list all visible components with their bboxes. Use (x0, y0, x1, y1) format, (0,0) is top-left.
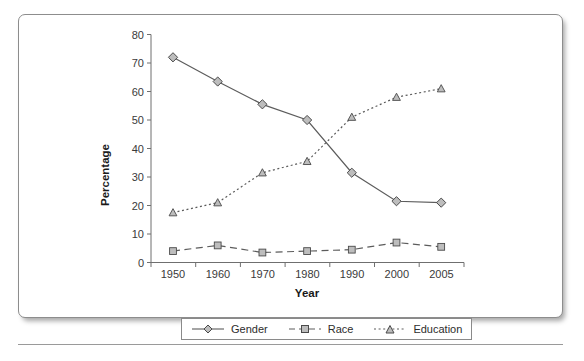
chart-legend: Gender Race Education (181, 318, 472, 340)
y-axis-title: Percentage (99, 144, 111, 206)
legend-label-education: Education (413, 323, 462, 335)
x-tick-label: 2005 (429, 268, 453, 280)
data-point-education-1950 (169, 209, 177, 216)
legend-label-race: Race (328, 323, 354, 335)
data-point-education-1960 (214, 199, 222, 206)
series-line-gender (173, 57, 441, 202)
data-point-gender-1950 (168, 53, 177, 62)
series-education (169, 85, 445, 216)
chart-canvas: Percentage 80 70 60 50 40 30 20 10 0 (19, 15, 564, 317)
series-layer (168, 53, 445, 256)
diamond-marker-solid-line-icon (191, 323, 225, 335)
data-point-education-2005 (437, 85, 445, 92)
series-race (170, 239, 445, 256)
y-tick-label: 50 (132, 114, 144, 126)
legend-entry-gender: Gender (191, 323, 268, 335)
x-tick-label: 1980 (295, 268, 319, 280)
series-gender (168, 53, 445, 208)
y-tick-label: 40 (132, 143, 144, 155)
y-tick-label: 70 (132, 57, 144, 69)
data-point-race-1990 (348, 246, 355, 253)
legend-label-gender: Gender (231, 323, 268, 335)
y-axis-ticks: 80 70 60 50 40 30 20 10 0 (132, 29, 144, 269)
data-point-education-2000 (393, 93, 401, 100)
y-tick-label: 10 (132, 228, 144, 240)
x-axis-ticks: 1950 1960 1970 1980 1990 2000 2005 (161, 268, 454, 280)
data-point-gender-2000 (392, 197, 401, 206)
data-point-race-1970 (259, 249, 266, 256)
y-tick-label: 60 (132, 86, 144, 98)
data-point-race-2000 (393, 239, 400, 246)
y-tick-label: 30 (132, 171, 144, 183)
x-tick-label: 2000 (385, 268, 409, 280)
figure-card: Percentage 80 70 60 50 40 30 20 10 0 (18, 14, 563, 318)
figure-page: Percentage 80 70 60 50 40 30 20 10 0 (0, 0, 584, 361)
data-point-race-1960 (214, 242, 221, 249)
triangle-marker-dotted-line-icon (373, 323, 407, 335)
x-tick-label: 1970 (250, 268, 274, 280)
x-tick-label: 1950 (161, 268, 185, 280)
x-axis-title: Year (295, 287, 320, 299)
square-marker-dashed-line-icon (288, 323, 322, 335)
data-point-gender-2005 (437, 198, 446, 207)
series-line-education (173, 89, 441, 213)
x-tick-marks (151, 263, 464, 268)
data-point-education-1990 (348, 113, 356, 120)
y-tick-label: 0 (138, 257, 144, 269)
x-tick-label: 1990 (340, 268, 364, 280)
data-point-gender-1960 (213, 77, 222, 86)
y-tick-label: 20 (132, 200, 144, 212)
data-point-race-1950 (170, 248, 177, 255)
legend-entry-race: Race (288, 323, 354, 335)
page-divider-rule (18, 344, 563, 345)
data-point-race-2005 (438, 243, 445, 250)
line-chart: Percentage 80 70 60 50 40 30 20 10 0 (19, 15, 562, 317)
y-tick-marks (147, 35, 151, 263)
y-tick-label: 80 (132, 29, 144, 41)
legend-entry-education: Education (373, 323, 462, 335)
data-point-education-1980 (303, 157, 311, 164)
data-point-gender-1970 (258, 100, 267, 109)
data-point-race-1980 (304, 248, 311, 255)
x-tick-label: 1960 (206, 268, 230, 280)
